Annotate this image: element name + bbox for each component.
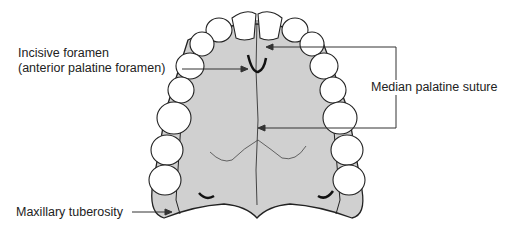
label-median-palatine-suture: Median palatine suture <box>369 80 499 95</box>
label-incisive-foramen-alt: (anterior palatine foramen) <box>18 61 165 76</box>
label-maxillary-tuberosity: Maxillary tuberosity <box>16 205 123 220</box>
palate-diagram <box>0 0 514 238</box>
label-incisive-foramen: Incisive foramen <box>18 46 109 61</box>
